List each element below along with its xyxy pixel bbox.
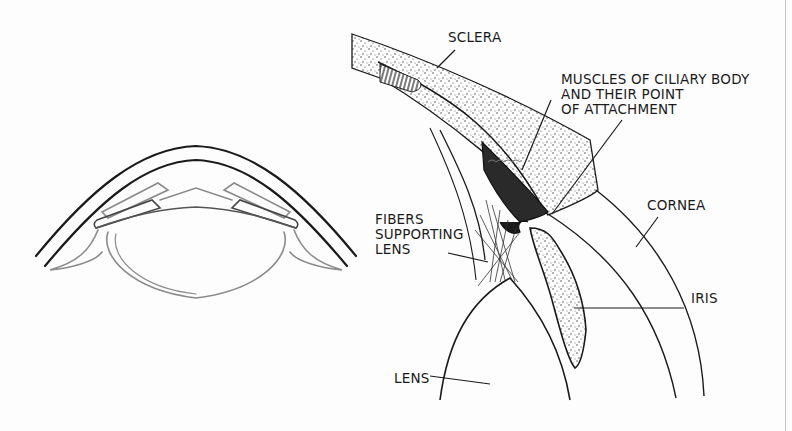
label-cornea: CORNEA (647, 198, 706, 213)
label-lens: LENS (394, 371, 430, 386)
schematic-eye (36, 146, 356, 298)
scan-edge-line (785, 0, 786, 431)
label-muscles-line2: AND THEIR POINT (561, 87, 749, 102)
label-fibers-line1: FIBERS (375, 212, 464, 227)
label-sclera: SCLERA (448, 30, 501, 45)
label-iris: IRIS (691, 291, 718, 306)
label-muscles-ciliary-body: MUSCLES OF CILIARY BODY AND THEIR POINT … (561, 72, 749, 117)
label-muscles-line1: MUSCLES OF CILIARY BODY (561, 72, 749, 87)
eye-anatomy-diagram: SCLERA MUSCLES OF CILIARY BODY AND THEIR… (0, 0, 792, 431)
label-fibers-supporting-lens: FIBERS SUPPORTING LENS (375, 212, 464, 257)
label-muscles-line3: OF ATTACHMENT (561, 102, 749, 117)
label-fibers-line3: LENS (375, 242, 464, 257)
label-fibers-line2: SUPPORTING (375, 227, 464, 242)
